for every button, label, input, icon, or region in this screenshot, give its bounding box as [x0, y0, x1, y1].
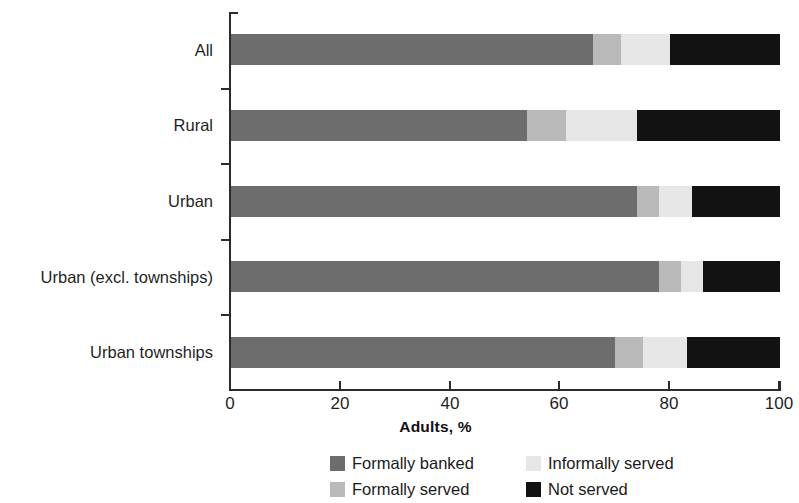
x-axis-title: Adults, % [0, 418, 799, 436]
bar-segment-not-served [692, 186, 780, 217]
legend-item-formally-banked[interactable]: Formally banked [330, 455, 526, 472]
bar-segment-not-served [687, 337, 780, 368]
x-axis-tick [778, 381, 780, 391]
bar-segment-formally-banked [231, 186, 637, 217]
bar-row [231, 34, 780, 65]
legend-label: Informally served [548, 455, 674, 472]
legend-item-formally-served[interactable]: Formally served [330, 481, 526, 498]
y-axis-tick [221, 239, 230, 241]
bar-segment-formally-served [527, 110, 565, 141]
bar-segment-formally-banked [231, 34, 593, 65]
bar-segment-formally-banked [231, 110, 527, 141]
bar-segment-formally-served [593, 34, 620, 65]
bar-segment-formally-banked [231, 337, 615, 368]
bar-segment-formally-served [615, 337, 642, 368]
x-axis-line [229, 389, 781, 391]
bar-segment-informally-served [621, 34, 670, 65]
legend-label: Formally served [352, 481, 469, 498]
category-label-5: Urban townships [0, 343, 221, 362]
x-axis-tick-label: 20 [331, 394, 350, 414]
bar-segment-informally-served [566, 110, 637, 141]
bar-segment-formally-banked [231, 261, 659, 292]
y-axis-top-cap [229, 12, 238, 14]
x-axis-tick-label: 80 [660, 394, 679, 414]
category-label-4: Urban (excl. townships) [0, 268, 221, 287]
x-axis-tick-label: 0 [225, 394, 234, 414]
x-axis-title-text: Adults, % [399, 418, 471, 436]
y-axis-tick [221, 88, 230, 90]
legend-swatch-icon [330, 482, 345, 497]
stacked-bar-chart: AllRuralUrbanUrban (excl. townships)Urba… [0, 0, 799, 503]
bar-segment-formally-served [659, 261, 681, 292]
category-label-1: All [0, 41, 221, 60]
bar-segment-not-served [703, 261, 780, 292]
category-label-3: Urban [0, 192, 221, 211]
legend-label: Not served [548, 481, 628, 498]
x-axis-tick [449, 381, 451, 391]
category-label-2: Rural [0, 116, 221, 135]
legend-item-not-served[interactable]: Not served [526, 481, 726, 498]
bar-row [231, 337, 780, 368]
x-axis-tick [558, 381, 560, 391]
y-axis-tick [221, 314, 230, 316]
x-axis-tick [229, 381, 231, 391]
bar-segment-informally-served [681, 261, 703, 292]
x-axis-tick-label: 40 [441, 394, 460, 414]
legend-swatch-icon [526, 482, 541, 497]
bar-row [231, 261, 780, 292]
bar-segment-not-served [637, 110, 780, 141]
bar-segment-formally-served [637, 186, 659, 217]
legend-label: Formally banked [352, 455, 474, 472]
x-axis-tick [339, 381, 341, 391]
bar-segment-not-served [670, 34, 780, 65]
legend-item-informally-served[interactable]: Informally served [526, 455, 726, 472]
x-axis-tick-label: 60 [550, 394, 569, 414]
y-axis-tick [221, 163, 230, 165]
x-axis-tick-label: 100 [765, 394, 793, 414]
legend-swatch-icon [330, 456, 345, 471]
bar-row [231, 186, 780, 217]
legend-swatch-icon [526, 456, 541, 471]
x-axis-tick [668, 381, 670, 391]
bar-row [231, 110, 780, 141]
chart-legend: Formally bankedInformally servedFormally… [330, 450, 750, 502]
bar-segment-informally-served [643, 337, 687, 368]
bar-segment-informally-served [659, 186, 692, 217]
